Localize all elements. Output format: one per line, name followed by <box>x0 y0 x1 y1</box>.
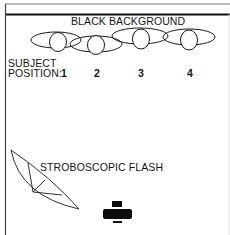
subject-figure-3 <box>112 28 168 49</box>
position-number-2: 2 <box>94 67 100 79</box>
position-number-3: 3 <box>138 67 144 79</box>
background-label: BLACK BACKGROUND <box>71 15 185 27</box>
subject-figure-2 <box>70 36 122 55</box>
diagram-frame: BLACK BACKGROUND SUBJECT POSITION: 1 2 3… <box>0 0 230 235</box>
position-number-1: 1 <box>61 67 67 79</box>
subject-figure-4 <box>163 29 215 50</box>
position-label: POSITION: <box>8 67 62 79</box>
diagram-lines <box>0 0 230 235</box>
stroboscopic-flash-reflector-icon <box>11 150 79 209</box>
flash-label: STROBOSCOPIC FLASH <box>40 161 163 173</box>
camera-icon <box>103 201 132 223</box>
position-number-4: 4 <box>187 67 193 79</box>
